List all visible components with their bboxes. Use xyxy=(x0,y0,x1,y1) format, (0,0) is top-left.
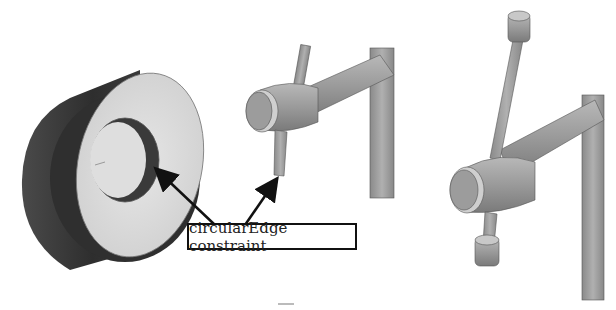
clamp-assembly-partial xyxy=(246,45,394,198)
page-mark xyxy=(278,303,294,305)
clamp-assembly-constrained xyxy=(450,11,604,300)
callout-label: circularEdge constraint xyxy=(187,223,357,250)
figure-canvas: circularEdge constraint xyxy=(0,0,616,310)
cad-illustration xyxy=(0,0,616,310)
